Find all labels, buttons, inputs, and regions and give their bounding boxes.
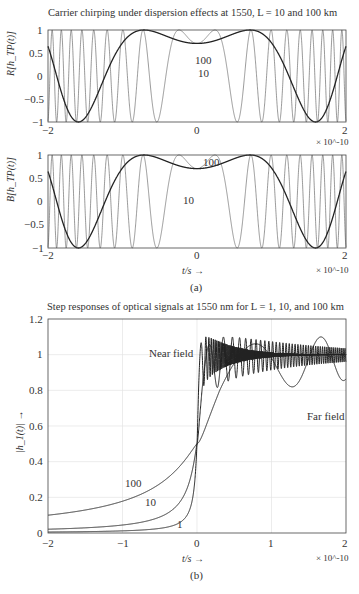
curve-label: 10 bbox=[198, 67, 209, 79]
tick: −2 bbox=[42, 537, 54, 549]
tick: 1.2 bbox=[29, 313, 43, 325]
y-label: B[h_TP(t)] bbox=[5, 157, 16, 202]
x-label: t/s → bbox=[182, 265, 204, 276]
tick: 1 bbox=[268, 537, 274, 549]
tick: 0 bbox=[37, 70, 43, 82]
x-label: t/s → bbox=[182, 553, 204, 564]
x-scale: × 10^-10 bbox=[316, 137, 349, 147]
tick: 0.5 bbox=[29, 47, 43, 59]
tick: 0.8 bbox=[29, 384, 43, 396]
figure-b-title: Step responses of optical signals at 155… bbox=[47, 301, 344, 312]
curve-label: 10 bbox=[183, 194, 194, 206]
tick: 1 bbox=[37, 24, 43, 36]
caption: (b) bbox=[190, 569, 203, 581]
x-scale: × 10^-10 bbox=[316, 553, 349, 563]
tick: −0.5 bbox=[24, 218, 44, 230]
curve-label: 100 bbox=[195, 54, 212, 66]
curve-label: 1 bbox=[177, 518, 183, 530]
tick: −2 bbox=[42, 249, 54, 261]
tick: 2 bbox=[342, 124, 348, 136]
tick: 0 bbox=[194, 249, 200, 261]
tick: 0.2 bbox=[29, 491, 43, 503]
curve-label: 10 bbox=[145, 496, 156, 508]
tick: 0 bbox=[194, 124, 200, 136]
y-label: |h_1(t)| → bbox=[14, 411, 25, 453]
y-label: R[h_TP(t)] bbox=[5, 31, 16, 76]
curve-label: 100 bbox=[125, 477, 142, 489]
tick: 0 bbox=[194, 537, 200, 549]
x-scale: × 10^-10 bbox=[316, 265, 349, 275]
tick: 2 bbox=[342, 249, 348, 261]
annotation-near-field: Near field bbox=[149, 347, 193, 359]
tick: −2 bbox=[42, 124, 54, 136]
caption: (a) bbox=[190, 281, 202, 293]
annotation-far-field: Far field bbox=[307, 410, 345, 422]
tick: −0.5 bbox=[24, 93, 44, 105]
tick: 1 bbox=[37, 149, 43, 161]
plots-canvas bbox=[0, 0, 359, 594]
tick: 0 bbox=[37, 195, 43, 207]
tick: 0.4 bbox=[29, 455, 43, 467]
tick: 1 bbox=[37, 348, 43, 360]
tick: 0.5 bbox=[29, 172, 43, 184]
figure: Carrier chirping under dispersion effect… bbox=[0, 0, 359, 594]
tick: −1 bbox=[117, 537, 129, 549]
tick: 0.6 bbox=[29, 420, 43, 432]
tick: 2 bbox=[342, 537, 348, 549]
curve-label: 100 bbox=[203, 156, 220, 168]
